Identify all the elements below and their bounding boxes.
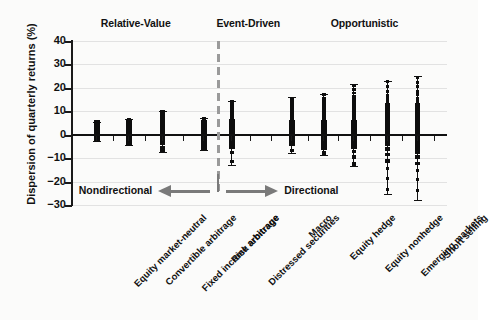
data-point	[321, 146, 327, 150]
range-cap	[414, 200, 422, 201]
x-tick-mark	[402, 136, 403, 141]
direction-arrow-stem	[217, 174, 219, 192]
data-column	[387, 41, 388, 205]
y-tick-mark	[65, 158, 72, 160]
data-point	[415, 162, 420, 166]
data-point	[415, 150, 420, 154]
data-point	[386, 90, 390, 93]
range-cap	[350, 166, 358, 167]
data-point	[385, 142, 391, 146]
x-tick-mark	[128, 136, 129, 141]
directional-arrow-head	[265, 185, 278, 197]
nondirectional-arrow-shaft	[170, 190, 210, 193]
x-tick-mark	[203, 136, 204, 141]
x-tick-mark	[353, 136, 354, 141]
range-cap	[228, 165, 236, 166]
strategy-group-divider	[217, 41, 220, 191]
y-tick-mark	[65, 182, 72, 184]
nondirectional-arrow-head	[158, 185, 171, 197]
x-tick-mark	[271, 136, 272, 141]
x-tick-mark	[183, 136, 184, 141]
data-point	[352, 84, 356, 87]
data-column	[353, 41, 354, 205]
directional-arrow-shaft	[226, 190, 266, 193]
data-point	[416, 85, 420, 88]
data-point	[416, 178, 420, 181]
x-tick-mark	[387, 136, 388, 141]
data-point	[290, 149, 295, 153]
data-point	[352, 150, 357, 154]
data-point	[416, 76, 420, 79]
data-column	[128, 41, 129, 205]
y-tick-label: −30	[32, 199, 66, 210]
y-tick-label: 20	[32, 82, 66, 93]
plot-area	[72, 41, 447, 205]
data-column	[291, 41, 292, 205]
data-point	[289, 141, 295, 145]
data-point	[160, 140, 166, 144]
data-point	[385, 159, 390, 163]
data-column	[231, 41, 232, 205]
data-point	[352, 155, 357, 159]
y-tick-mark	[65, 64, 72, 66]
data-point	[416, 189, 420, 192]
data-column	[162, 41, 163, 205]
data-point	[322, 151, 327, 155]
data-point	[386, 85, 390, 88]
data-point	[416, 81, 420, 84]
x-tick-mark	[145, 136, 146, 141]
data-point	[386, 167, 390, 170]
range-cap	[288, 153, 296, 154]
x-tick-mark	[291, 136, 292, 141]
data-point	[352, 88, 356, 91]
data-column	[417, 41, 418, 205]
y-tick-mark	[65, 135, 72, 137]
y-tick-label: −10	[32, 152, 66, 163]
group-header: Opportunistic	[331, 17, 399, 29]
range-cap	[320, 155, 328, 156]
x-tick-mark	[113, 136, 114, 141]
y-axis-tick-labels: 403020100−10−20−30	[26, 0, 66, 320]
data-point	[416, 90, 420, 93]
data-point	[415, 155, 420, 159]
data-point	[385, 147, 390, 151]
x-tick-mark	[323, 136, 324, 141]
data-column	[96, 41, 97, 205]
y-tick-mark	[65, 41, 72, 43]
data-point	[229, 144, 235, 148]
y-tick-mark	[65, 111, 72, 113]
x-category-label: Equity hedge	[348, 212, 398, 262]
directional-label: Directional	[284, 184, 338, 196]
data-point	[386, 80, 390, 83]
x-tick-mark	[417, 136, 418, 141]
data-point	[416, 169, 420, 172]
group-header: Event-Driven	[216, 17, 280, 29]
gridline	[72, 205, 447, 206]
y-tick-label: 0	[32, 129, 66, 140]
x-tick-mark	[370, 136, 371, 141]
y-tick-label: 30	[32, 58, 66, 69]
data-point	[160, 149, 165, 153]
nondirectional-label: Nondirectional	[79, 184, 153, 196]
x-tick-mark	[162, 136, 163, 141]
x-tick-mark	[434, 136, 435, 141]
y-tick-label: 10	[32, 105, 66, 116]
data-point	[386, 177, 390, 180]
x-category-label: Distressed securities	[266, 212, 341, 287]
data-point	[126, 142, 132, 146]
data-point	[322, 93, 326, 96]
data-column	[203, 41, 204, 205]
y-tick-label: −20	[32, 176, 66, 187]
data-point	[352, 162, 357, 166]
data-point	[386, 188, 390, 191]
data-column	[323, 41, 324, 205]
range-cap	[384, 194, 392, 195]
data-point	[415, 145, 421, 149]
y-tick-mark	[65, 88, 72, 90]
y-tick-label: 40	[32, 35, 66, 46]
data-point	[230, 151, 235, 155]
group-header: Relative-Value	[101, 17, 171, 29]
x-tick-mark	[231, 136, 232, 141]
x-tick-mark	[250, 136, 251, 141]
